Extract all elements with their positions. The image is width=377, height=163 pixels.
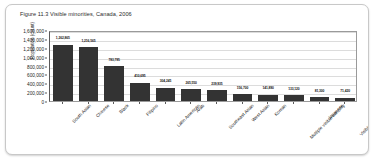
x-axis-tick-mark: [165, 102, 166, 104]
bar-value-label: 783,795: [108, 58, 119, 62]
bar-value-label: 239,935: [211, 82, 222, 86]
y-axis-tick-labels: 1,600,0001,400,0001,200,0001,000,000800,…: [6, 31, 47, 102]
bar-slot: 410,695: [127, 32, 153, 101]
bar-value-label: 265,550: [185, 81, 196, 85]
x-axis-category-label: Filipino: [145, 103, 159, 117]
bar[interactable]: [104, 66, 123, 101]
bar-slot: 304,245: [153, 32, 179, 101]
y-axis-tick-mark: [45, 66, 47, 67]
x-axis-category-label: South Asian: [71, 103, 92, 124]
y-axis-tick-label: 400,000: [27, 82, 44, 87]
figure-card: Figure 11.3 Visible minorities, Canada, …: [5, 4, 369, 155]
bar-value-label: 156,700: [237, 86, 248, 90]
bar[interactable]: [130, 83, 149, 101]
x-axis-category-labels: South AsianChineseBlackFilipinoLatin Ame…: [49, 103, 357, 155]
bar-value-label: 1,216,565: [82, 39, 96, 43]
bar-slot: 156,700: [230, 32, 256, 101]
y-axis-tick-mark: [45, 39, 47, 40]
x-axis-category-label: Korean: [273, 103, 287, 117]
bar-slot: 71,420: [332, 32, 358, 101]
bar-slot: 133,120: [281, 32, 307, 101]
x-axis-category-label: Visible minority, n.i.e.: [359, 103, 369, 137]
plot-area: 1,262,8651,216,565783,795410,695304,2452…: [49, 31, 357, 102]
bar-slot: 783,795: [101, 32, 127, 101]
y-axis-tick-label: 200,000: [27, 91, 44, 96]
bar-value-label: 81,300: [315, 89, 325, 93]
x-axis-tick-mark: [267, 102, 268, 104]
y-axis-tick-label: 1,000,000: [23, 55, 44, 60]
y-axis-tick-label: 800,000: [27, 64, 44, 69]
y-axis-tick-mark: [45, 31, 47, 32]
x-axis-tick-mark: [88, 102, 89, 104]
bar-slot: 141,890: [255, 32, 281, 101]
bar-value-label: 71,420: [340, 89, 350, 93]
x-axis-tick-mark: [216, 102, 217, 104]
x-axis-category-label: Japanese: [326, 103, 344, 121]
x-axis-category-label: Southeast Asian: [228, 103, 255, 130]
x-axis-tick-mark: [113, 102, 114, 104]
bar-slot: 265,550: [178, 32, 204, 101]
bar[interactable]: [284, 95, 303, 101]
bar-slot: 81,300: [307, 32, 333, 101]
y-axis-tick-mark: [45, 48, 47, 49]
bar[interactable]: [258, 95, 277, 101]
x-axis-tick-mark: [242, 102, 243, 104]
x-axis-tick-mark: [190, 102, 191, 104]
x-axis-tick-mark: [62, 102, 63, 104]
bar-value-label: 410,695: [134, 74, 145, 78]
x-axis-category-label: Black: [118, 103, 129, 114]
y-axis-tick-label: 1,600,000: [23, 29, 44, 34]
bar[interactable]: [207, 90, 226, 101]
bar-slot: 1,216,565: [76, 32, 102, 101]
bar[interactable]: [310, 97, 329, 101]
y-axis-tick-label: 0: [41, 100, 44, 105]
y-axis-tick-label: 1,400,000: [23, 37, 44, 42]
bar-slot: 1,262,865: [50, 32, 76, 101]
bar-value-label: 1,262,865: [56, 36, 70, 40]
y-axis-tick-mark: [45, 93, 47, 94]
x-axis-tick-mark: [293, 102, 294, 104]
bar[interactable]: [79, 47, 98, 101]
y-axis-tick-mark: [45, 102, 47, 103]
bar-value-label: 304,245: [160, 79, 171, 83]
y-axis-tick-mark: [45, 57, 47, 58]
bar[interactable]: [335, 98, 354, 101]
chart-title: Figure 11.3 Visible minorities, Canada, …: [20, 11, 132, 17]
y-axis-tick-label: 1,200,000: [23, 46, 44, 51]
bar-series: 1,262,8651,216,565783,795410,695304,2452…: [50, 32, 356, 101]
bar[interactable]: [53, 45, 72, 101]
bar[interactable]: [156, 88, 175, 102]
y-axis-tick-label: 600,000: [27, 73, 44, 78]
x-axis-tick-mark: [139, 102, 140, 104]
x-axis-tick-mark: [319, 102, 320, 104]
y-axis-tick-mark: [45, 84, 47, 85]
x-axis-tick-mark: [344, 102, 345, 104]
bar-slot: 239,935: [204, 32, 230, 101]
bar[interactable]: [181, 89, 200, 101]
bar-value-label: 141,890: [262, 86, 273, 90]
bar[interactable]: [233, 94, 252, 101]
bar-value-label: 133,120: [288, 87, 299, 91]
x-axis-category-label: Chinese: [94, 103, 109, 118]
y-axis-tick-mark: [45, 75, 47, 76]
